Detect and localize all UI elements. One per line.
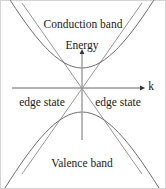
valence-band-label: Valence band bbox=[51, 158, 113, 170]
edge-state-label-right: edge state bbox=[95, 97, 141, 109]
arrow-right-icon bbox=[140, 85, 145, 90]
k-axis-label: k bbox=[148, 81, 154, 93]
conduction-band-label: Conduction band bbox=[44, 19, 123, 31]
edge-state-label-left: edge state bbox=[19, 97, 65, 109]
energy-axis-label: Energy bbox=[65, 40, 98, 52]
band-structure-figure: Conduction band Energy edge state edge s… bbox=[0, 0, 166, 189]
